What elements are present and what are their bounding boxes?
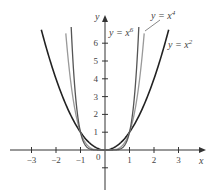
y-tick-label: 5 xyxy=(94,56,99,66)
label-x6: y = x6 xyxy=(108,26,134,38)
x-tick-label: −2 xyxy=(51,155,61,165)
y-axis-arrow-icon xyxy=(102,15,108,22)
x-tick-label: −1 xyxy=(76,155,86,165)
y-tick-label: 3 xyxy=(94,92,99,102)
y-tick-label: 1 xyxy=(94,127,99,137)
x-tick-label: −3 xyxy=(27,155,37,165)
y-tick-label: 6 xyxy=(94,38,99,48)
x-axis-arrow-icon xyxy=(199,147,206,153)
y-tick-label: 2 xyxy=(94,109,99,119)
origin-label: 0 xyxy=(96,152,101,162)
x-tick-label: 3 xyxy=(176,155,181,165)
y-axis-label: y xyxy=(94,11,100,22)
x-tick-label: 1 xyxy=(127,155,132,165)
y-tick-label: 4 xyxy=(94,74,99,84)
label-x4-leader xyxy=(145,20,160,31)
label-x2: y = x2 xyxy=(167,38,193,50)
x-tick-label: 2 xyxy=(152,155,157,165)
label-x4: y = x4 xyxy=(150,9,176,21)
chart: −3−2−1123123456 x y 0 y = x6 y = x4 y = … xyxy=(0,0,222,195)
x-axis-label: x xyxy=(198,155,204,166)
